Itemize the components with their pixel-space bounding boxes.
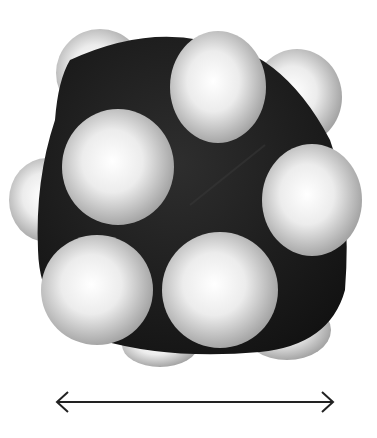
hydrogen-atom bbox=[162, 232, 278, 348]
hydrogen-atom bbox=[170, 31, 266, 143]
molecule-diagram bbox=[0, 0, 377, 438]
hydrogen-atom bbox=[62, 109, 174, 225]
hydrogen-atom bbox=[41, 235, 153, 345]
dimension-arrow bbox=[57, 392, 333, 412]
hydrogen-atom bbox=[262, 144, 362, 256]
